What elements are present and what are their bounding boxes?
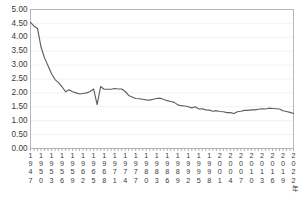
x-axis-tick-label-digit: 0 bbox=[144, 176, 148, 185]
x-axis-tick-label-digit: 0 bbox=[39, 176, 43, 185]
chart-canvas: 0.000.501.001.502.002.503.003.504.004.50… bbox=[0, 0, 301, 197]
x-axis-tick-labels: 1947195019531956195919621965196819711974… bbox=[29, 151, 296, 185]
x-axis-tick-label-digit: 8 bbox=[102, 176, 106, 185]
x-axis-tick-label-digit: 9 bbox=[281, 176, 285, 185]
x-axis-unit-label: 年 bbox=[292, 184, 299, 193]
x-axis-tick-label-digit: 9 bbox=[176, 176, 180, 185]
y-axis-tick-label: 2.00 bbox=[12, 88, 28, 97]
x-axis-tick-label-digit: 7 bbox=[29, 176, 33, 185]
x-axis-tick-label-digit: 5 bbox=[92, 176, 96, 185]
x-axis-tick-label-digit: 0 bbox=[249, 176, 253, 185]
fertility-rate-line-chart: 0.000.501.001.502.002.503.003.504.004.50… bbox=[0, 0, 301, 197]
x-axis-tick-label-digit: 6 bbox=[165, 176, 169, 185]
x-axis-tick-label-digit: 6 bbox=[270, 176, 274, 185]
y-axis-tick-label: 5.00 bbox=[12, 5, 28, 14]
x-axis-tick-label-digit: 9 bbox=[71, 176, 75, 185]
x-axis-tick-label-digit: 6 bbox=[60, 176, 64, 185]
x-axis-tick-label-digit: 4 bbox=[123, 176, 127, 185]
fertility-rate-series-line bbox=[31, 22, 294, 113]
y-axis-tick-label: 0.00 bbox=[12, 144, 28, 153]
x-axis-tick-label-digit: 7 bbox=[239, 176, 243, 185]
x-axis-tick-label-digit: 1 bbox=[113, 176, 117, 185]
x-axis-tick-label-digit: 2 bbox=[186, 176, 190, 185]
x-axis-tick-label-digit: 1 bbox=[218, 176, 222, 185]
y-axis-tick-label: 4.50 bbox=[12, 19, 28, 28]
y-axis-tick-labels: 0.000.501.001.502.002.503.003.504.004.50… bbox=[12, 5, 28, 153]
y-axis-tick-label: 1.00 bbox=[12, 116, 28, 125]
x-axis-tick-label-digit: 8 bbox=[207, 176, 211, 185]
y-axis-tick-label: 2.50 bbox=[12, 74, 28, 83]
x-axis-tick-label-digit: 2 bbox=[292, 176, 296, 185]
x-axis-tick-label-digit: 4 bbox=[228, 176, 232, 185]
x-axis-tick-label-digit: 3 bbox=[50, 176, 54, 185]
y-axis-tick-label: 3.50 bbox=[12, 46, 28, 55]
x-axis-tick-label-digit: 7 bbox=[134, 176, 138, 185]
gridlines bbox=[31, 23, 294, 134]
y-axis-tick-label: 1.50 bbox=[12, 102, 28, 111]
x-axis-tick-label-digit: 5 bbox=[197, 176, 201, 185]
x-axis-tick-label-digit: 3 bbox=[260, 176, 264, 185]
y-axis-tick-label: 0.50 bbox=[12, 130, 28, 139]
x-axis-tick-label-digit: 3 bbox=[155, 176, 159, 185]
x-axis-tick-label-digit: 2 bbox=[81, 176, 85, 185]
y-axis-tick-label: 3.00 bbox=[12, 60, 28, 69]
y-axis-tick-label: 4.00 bbox=[12, 32, 28, 41]
